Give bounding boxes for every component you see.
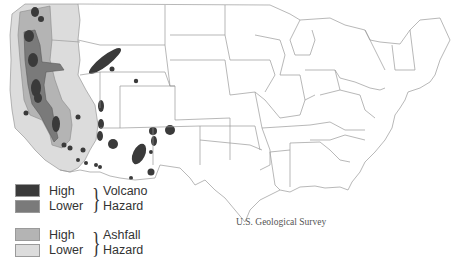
us-hazard-map <box>0 0 458 257</box>
ashfall-category-line2: Hazard <box>103 243 143 257</box>
volcano-category-line1: Volcano <box>103 184 147 198</box>
map-credit: U.S. Geological Survey <box>236 217 326 227</box>
ashfall-lower-swatch <box>15 244 40 257</box>
ashfall-category-line1: Ashfall <box>103 228 141 242</box>
ashfall-high-label: High <box>49 228 75 242</box>
volcano-high-label: High <box>49 184 75 198</box>
volcano-category-line2: Hazard <box>103 199 143 213</box>
brace-icon: } <box>92 226 101 257</box>
brace-icon: } <box>92 182 101 214</box>
volcano-high-swatch <box>15 184 40 197</box>
ashfall-high-swatch <box>15 228 40 241</box>
volcano-lower-swatch <box>15 200 40 213</box>
ashfall-lower-label: Lower <box>49 243 83 257</box>
volcano-lower-label: Lower <box>49 199 83 213</box>
